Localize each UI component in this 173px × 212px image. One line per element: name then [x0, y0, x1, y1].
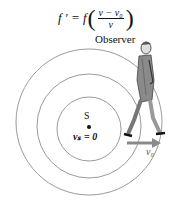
source-dot	[87, 125, 91, 129]
observer-velocity-arrow	[127, 138, 161, 148]
formula-lhs: f ′ = f	[58, 10, 87, 26]
formula-numerator: v − v₀	[98, 7, 124, 19]
observer-velocity-label: v₀	[146, 146, 154, 157]
right-paren: )	[126, 6, 134, 30]
doppler-formula: f ′ = f ( v − v₀ v )	[58, 6, 135, 30]
formula-denominator: v	[108, 19, 112, 30]
observer-label: Observer	[95, 33, 135, 45]
left-paren: (	[88, 6, 96, 30]
observer-figure-icon	[124, 42, 165, 136]
source-label: S	[84, 110, 90, 121]
doppler-diagram	[0, 0, 173, 212]
formula-fraction: v − v₀ v	[98, 7, 124, 30]
source-velocity-label: vₛ = 0	[73, 131, 97, 142]
